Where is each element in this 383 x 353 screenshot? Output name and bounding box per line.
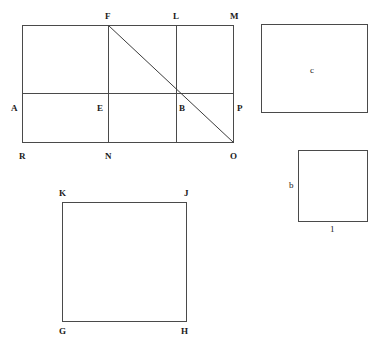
- diagonal-line-FO: [109, 26, 234, 143]
- dimension-label-c: c: [310, 66, 314, 75]
- main-rectangle-outline: [23, 26, 234, 143]
- vertex-label-N: N: [105, 152, 112, 161]
- square-b-outline: [299, 151, 368, 222]
- vertex-label-E: E: [97, 104, 103, 113]
- vertex-label-P: P: [237, 104, 243, 113]
- vertex-label-M: M: [230, 12, 239, 21]
- vertex-label-K: K: [59, 189, 66, 198]
- dimension-label-b: b: [289, 181, 294, 190]
- vertex-label-G: G: [59, 327, 66, 336]
- geometry-diagram-canvas: [0, 0, 383, 353]
- vertex-label-L: L: [173, 12, 179, 21]
- vertex-label-R: R: [19, 152, 26, 161]
- vertex-label-B: B: [179, 104, 185, 113]
- dimension-label-one: 1: [330, 225, 335, 234]
- vertex-label-J: J: [184, 189, 189, 198]
- rectangle-c-outline: [262, 25, 368, 113]
- vertex-label-F: F: [105, 12, 111, 21]
- vertex-label-H: H: [181, 327, 188, 336]
- square-KJHG-outline: [63, 203, 187, 322]
- vertex-label-O: O: [230, 152, 237, 161]
- vertex-label-A: A: [11, 104, 18, 113]
